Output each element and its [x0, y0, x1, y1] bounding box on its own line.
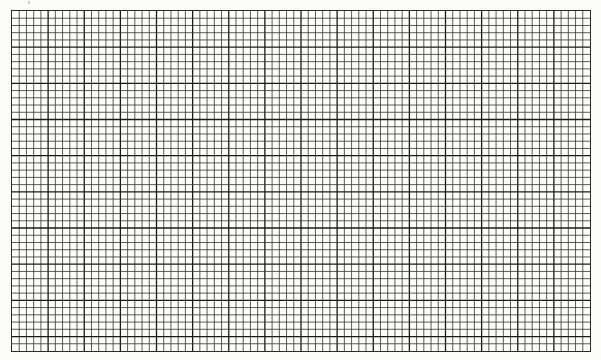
graph-paper-sheet — [0, 0, 601, 360]
grid-lines — [12, 11, 590, 351]
grid-area — [11, 10, 591, 352]
scan-mark — [28, 1, 30, 4]
